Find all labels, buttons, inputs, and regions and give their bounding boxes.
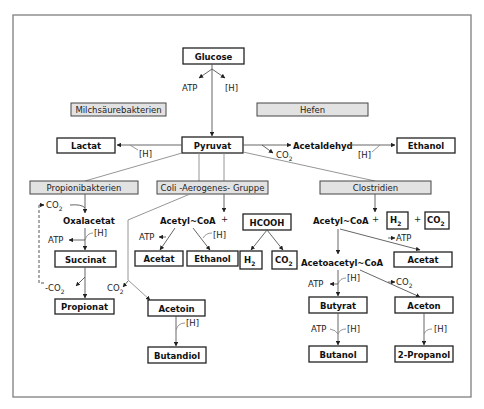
node-glucose: Glucose <box>183 48 244 64</box>
node-h2-clos: H2 <box>387 212 408 229</box>
node-hcooh: HCOOH <box>243 214 291 230</box>
svg-text:ATP: ATP <box>48 235 63 245</box>
svg-text:Ethanol: Ethanol <box>408 141 445 151</box>
group-hefen: Hefen <box>257 103 368 116</box>
svg-text:ATP: ATP <box>139 232 154 242</box>
acetylcoa-coli-label: Acetyl~CoA <box>160 216 216 226</box>
svg-text:+: + <box>372 214 379 224</box>
svg-text:[H]: [H] <box>347 324 360 334</box>
node-co2-clos: CO2 <box>425 212 449 229</box>
group-clostridien: Clostridien <box>320 181 431 194</box>
node-butyrat: Butyrat <box>309 297 367 313</box>
svg-text:ATP: ATP <box>308 279 323 289</box>
group-milchsaeurebakterien: Milchsäurebakterien <box>71 103 166 116</box>
svg-text:Clostridien: Clostridien <box>353 183 399 193</box>
svg-text:HCOOH: HCOOH <box>250 218 285 228</box>
svg-text:Ethanol: Ethanol <box>194 254 231 264</box>
glucose-label: Glucose <box>195 52 233 62</box>
lactat-h-label: [H] <box>139 149 152 159</box>
acetoacetylcoa-label: Acetoacetyl~CoA <box>301 258 384 268</box>
node-ethanol-coli: Ethanol <box>187 251 238 266</box>
svg-text:Butyrat: Butyrat <box>320 301 356 311</box>
svg-text:Acetoin: Acetoin <box>158 304 194 314</box>
svg-text:ATP: ATP <box>311 324 326 334</box>
node-h2-coli: H2 <box>240 251 262 269</box>
svg-text:Coli -Aerogenes- Gruppe: Coli -Aerogenes- Gruppe <box>161 183 265 193</box>
svg-text:[H]: [H] <box>94 228 107 238</box>
svg-text:Succinat: Succinat <box>65 255 106 265</box>
oxalacetat-label: Oxalacetat <box>63 216 115 226</box>
svg-text:[H]: [H] <box>358 150 371 160</box>
svg-text:+: + <box>221 214 228 224</box>
svg-text:Propionat: Propionat <box>61 302 108 312</box>
svg-text:[H]: [H] <box>186 318 199 328</box>
node-acetoin: Acetoin <box>148 300 205 316</box>
fermentation-diagram: Glucose ATP [H] Milchsäurebakterien Hefe… <box>0 0 484 409</box>
node-acetat-clos: Acetat <box>394 252 452 267</box>
node-succinat: Succinat <box>55 251 116 267</box>
node-2-propanol: 2-Propanol <box>395 346 453 362</box>
node-butanol: Butanol <box>309 346 367 362</box>
node-lactat: Lactat <box>57 138 115 153</box>
svg-text:Acetat: Acetat <box>407 255 438 265</box>
svg-text:ATP: ATP <box>396 233 411 243</box>
svg-text:Hefen: Hefen <box>300 105 325 115</box>
svg-text:Aceton: Aceton <box>407 301 440 311</box>
svg-text:[H]: [H] <box>213 230 226 240</box>
group-propionibakterien: Propionibakterien <box>30 181 138 194</box>
node-butandiol: Butandiol <box>148 347 206 363</box>
acetaldehyd-label: Acetaldehyd <box>293 141 353 151</box>
node-co2-coli: CO2 <box>272 251 297 269</box>
node-pyruvat: Pyruvat <box>182 137 243 153</box>
svg-text:Milchsäurebakterien: Milchsäurebakterien <box>75 105 161 115</box>
node-ethanol-hefe: Ethanol <box>397 138 455 153</box>
group-coli-aerogenes: Coli -Aerogenes- Gruppe <box>157 181 268 194</box>
svg-text:2-Propanol: 2-Propanol <box>398 350 450 360</box>
glucose-atp-label: ATP <box>182 83 197 93</box>
glucose-h-label: [H] <box>225 83 238 93</box>
node-aceton: Aceton <box>395 297 453 313</box>
acetylcoa-clos-label: Acetyl~CoA <box>313 216 369 226</box>
svg-text:Butandiol: Butandiol <box>154 351 200 361</box>
svg-text:+: + <box>414 214 421 224</box>
node-propionat: Propionat <box>55 299 114 314</box>
svg-text:Acetat: Acetat <box>143 254 174 264</box>
svg-text:[H]: [H] <box>347 273 360 283</box>
svg-text:[H]: [H] <box>434 324 447 334</box>
svg-text:Propionibakterien: Propionibakterien <box>47 183 122 193</box>
node-acetat-coli: Acetat <box>135 251 183 266</box>
svg-text:Pyruvat: Pyruvat <box>194 141 232 151</box>
svg-text:Lactat: Lactat <box>71 141 101 151</box>
svg-text:Butanol: Butanol <box>319 350 356 360</box>
